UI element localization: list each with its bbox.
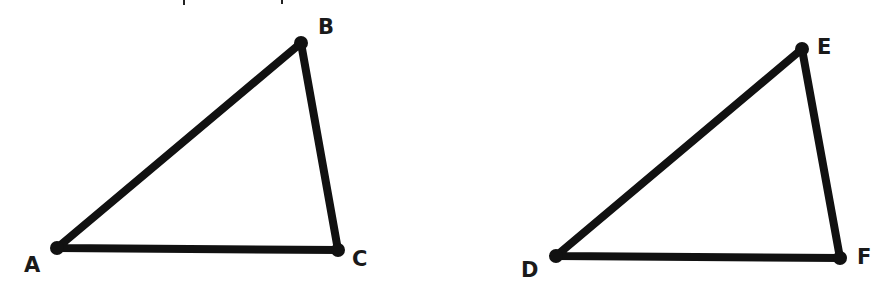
vertex-a-label: A <box>24 253 41 277</box>
vertex-c-label: C <box>352 247 367 271</box>
vertex-d-point <box>549 249 563 263</box>
cutoff-text-fragment <box>183 0 283 5</box>
vertex-a-point <box>50 241 64 255</box>
triangle-diagram: A B C D E F <box>0 0 893 297</box>
vertex-e-point <box>795 42 809 56</box>
vertex-b-label: B <box>318 15 334 39</box>
vertex-e-label: E <box>817 35 831 59</box>
vertex-f-point <box>833 251 847 265</box>
vertex-b-point <box>294 36 308 50</box>
vertex-c-point <box>331 243 345 257</box>
vertex-f-label: F <box>857 245 871 269</box>
triangle-abc: A B C <box>24 15 367 277</box>
triangle-abc-outline <box>57 43 338 250</box>
triangle-def: D E F <box>521 35 871 282</box>
triangle-def-outline <box>556 49 840 258</box>
vertex-d-label: D <box>521 258 538 282</box>
